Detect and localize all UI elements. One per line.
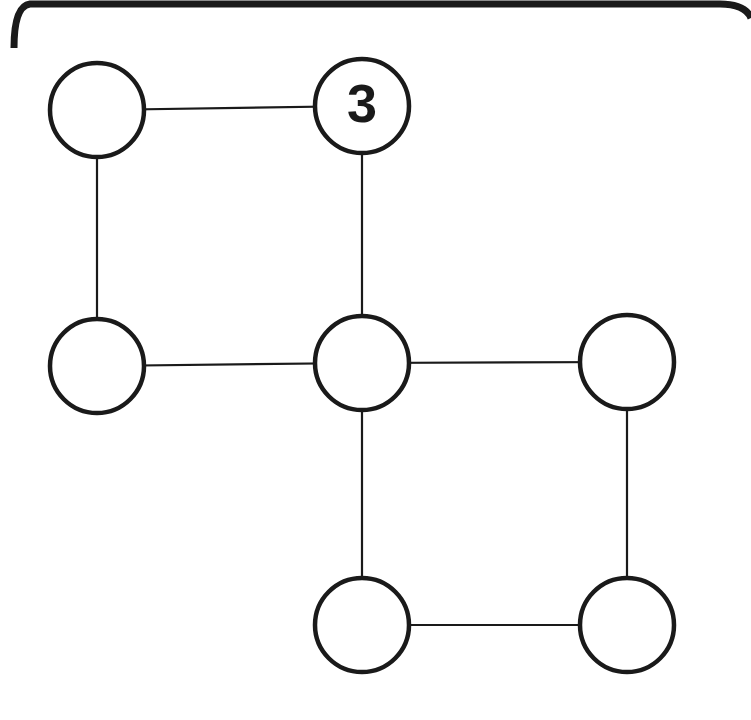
node-circle[interactable] bbox=[580, 578, 674, 672]
node-n5[interactable] bbox=[580, 315, 674, 409]
node-n6[interactable] bbox=[315, 578, 409, 672]
graph-svg: 3 bbox=[0, 0, 751, 720]
node-n2[interactable]: 3 bbox=[315, 59, 409, 153]
node-circle[interactable] bbox=[50, 319, 144, 413]
node-n4[interactable] bbox=[315, 316, 409, 410]
node-circle[interactable] bbox=[315, 316, 409, 410]
node-label: 3 bbox=[347, 73, 377, 133]
diagram-canvas: 3 bbox=[0, 0, 751, 720]
node-circle[interactable] bbox=[50, 63, 144, 157]
node-circle[interactable] bbox=[580, 315, 674, 409]
panel-border bbox=[14, 4, 751, 48]
node-n1[interactable] bbox=[50, 63, 144, 157]
node-circle[interactable] bbox=[315, 578, 409, 672]
node-n7[interactable] bbox=[580, 578, 674, 672]
nodes-group: 3 bbox=[50, 59, 674, 672]
node-n3[interactable] bbox=[50, 319, 144, 413]
